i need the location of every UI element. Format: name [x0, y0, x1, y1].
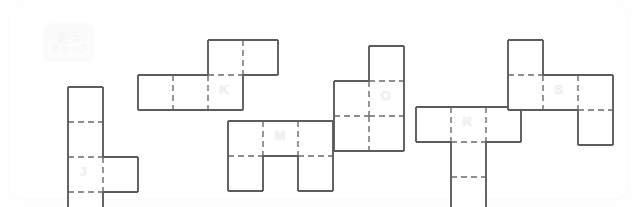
net-cell[interactable] — [208, 75, 243, 110]
net-cell[interactable] — [369, 81, 404, 116]
net-cell[interactable] — [298, 156, 333, 191]
logo-primary-text: 使う — [57, 32, 82, 45]
net-cell[interactable] — [334, 116, 369, 151]
net-cell[interactable] — [369, 46, 404, 81]
net-o[interactable]: O — [332, 44, 406, 153]
net-k-graphic — [136, 38, 280, 112]
net-cell[interactable] — [451, 107, 486, 142]
net-k[interactable]: K — [136, 38, 280, 112]
net-cell[interactable] — [263, 121, 298, 156]
net-cell[interactable] — [103, 157, 138, 192]
app-logo-badge[interactable]: 使う キューブ — [43, 23, 95, 63]
net-cell[interactable] — [68, 122, 103, 157]
net-cell[interactable] — [298, 121, 333, 156]
net-cell[interactable] — [208, 40, 243, 75]
logo-secondary-text: キューブ — [51, 45, 88, 54]
net-cell[interactable] — [68, 87, 103, 122]
net-cell[interactable] — [334, 81, 369, 116]
net-j[interactable]: J — [66, 85, 140, 207]
net-m[interactable]: M — [226, 119, 335, 193]
net-cell[interactable] — [243, 40, 278, 75]
net-cell[interactable] — [228, 156, 263, 191]
net-cell[interactable] — [173, 75, 208, 110]
net-cell[interactable] — [508, 40, 543, 75]
net-cell[interactable] — [68, 192, 103, 207]
net-cell[interactable] — [416, 107, 451, 142]
net-cell[interactable] — [369, 116, 404, 151]
net-s[interactable]: S — [506, 38, 615, 147]
net-m-graphic — [226, 119, 335, 193]
net-cell[interactable] — [578, 110, 613, 145]
puzzle-screen: 使う キューブ JKMORS — [0, 0, 637, 207]
net-cell[interactable] — [578, 75, 613, 110]
net-cell[interactable] — [68, 157, 103, 192]
net-cell[interactable] — [543, 75, 578, 110]
net-o-graphic — [332, 44, 406, 153]
puzzle-panel: 使う キューブ JKMORS — [10, 6, 627, 198]
net-s-graphic — [506, 38, 615, 147]
net-j-graphic — [66, 85, 140, 207]
net-cell[interactable] — [508, 75, 543, 110]
net-cell[interactable] — [228, 121, 263, 156]
net-cell[interactable] — [451, 177, 486, 207]
net-cell[interactable] — [451, 142, 486, 177]
net-cell[interactable] — [138, 75, 173, 110]
